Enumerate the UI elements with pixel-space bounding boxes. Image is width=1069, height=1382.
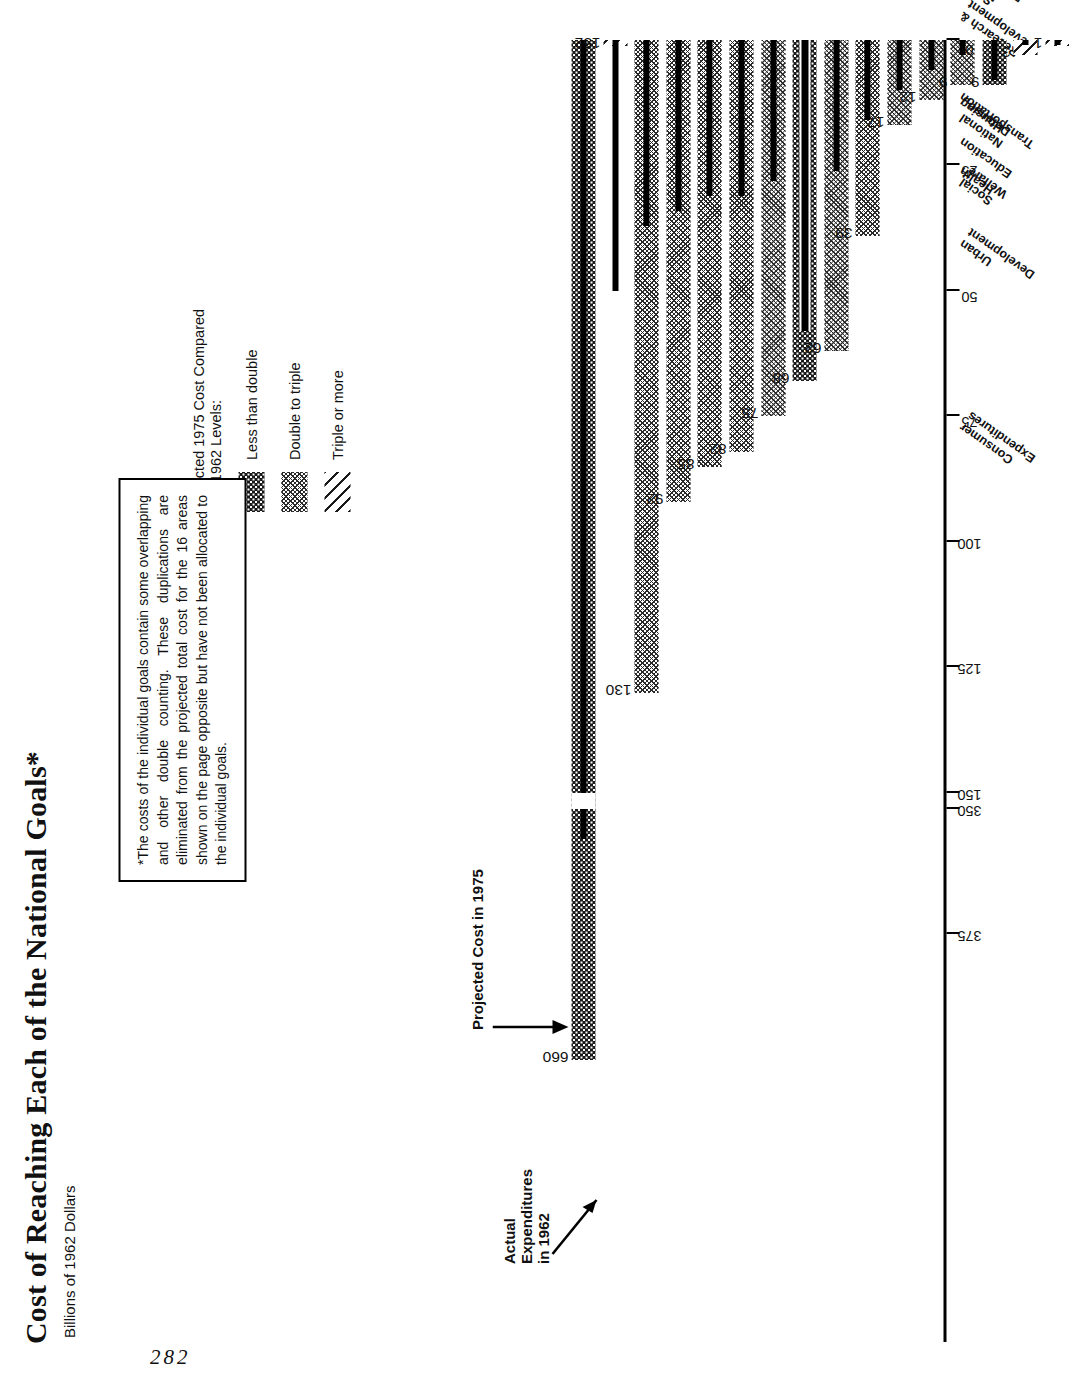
bar-value-label: 75 (740, 405, 757, 423)
actual-1962-inner-bar (799, 40, 810, 331)
footnote-text: *The costs of the individual goals conta… (133, 495, 231, 865)
legend: Projected 1975 Cost Compared with 1962 L… (190, 262, 367, 512)
page-title: Cost of Reaching Each of the National Go… (18, 751, 52, 1344)
axis-tick-label: 150 (957, 787, 981, 803)
bar-slot (603, 40, 627, 46)
bar-slot (824, 40, 848, 351)
axis-tick-label: 25 (961, 163, 977, 179)
annotation-arrow-actual-icon (548, 1172, 610, 1262)
actual-1962-inner-bar (959, 40, 965, 55)
bar-value-label: 92 (646, 490, 663, 508)
page-subtitle: Billions of 1962 Dollars (60, 1185, 77, 1338)
bar-value-label: 9 (970, 73, 979, 91)
bar-slot (792, 40, 816, 381)
legend-title-line2: with 1962 Levels: (207, 262, 224, 512)
bar-slot (697, 40, 721, 467)
axis-tick-label: 0 (965, 42, 973, 58)
actual-1962-inner-bar (738, 40, 744, 196)
annotation-line2: Expenditures (517, 1169, 534, 1264)
actual-1962-inner-bar (1022, 40, 1028, 45)
axis-tick-label: 375 (957, 928, 981, 944)
legend-label: Triple or more (329, 370, 345, 460)
actual-1962-inner-bar (833, 40, 839, 171)
bar-group: 660ConsumerExpenditures152Private Plant … (565, 40, 943, 1342)
actual-1962-inner-bar (643, 40, 649, 226)
axis-tick (946, 164, 959, 166)
annotation-actual-1962: Actual Expenditures in 1962 (500, 1169, 551, 1264)
bar-value-label: 62 (804, 339, 821, 357)
actual-1962-inner-bar (580, 40, 586, 839)
axis-tick (946, 415, 959, 417)
axis-tick-label: 350 (957, 803, 981, 819)
bar-value-label: 17 (867, 113, 884, 131)
actual-1962-inner-bar (896, 40, 902, 90)
actual-1962-inner-bar (1054, 40, 1060, 45)
legend-title-line1: Projected 1975 Cost Compared (190, 262, 207, 512)
bar-slot (855, 40, 879, 236)
axis-break-icon (603, 793, 627, 809)
bar-slot (887, 40, 911, 125)
legend-item-triple-or-more: Triple or more (324, 262, 350, 512)
annotation-arrow-projected-icon (492, 1014, 572, 1038)
actual-1962-inner-bar (928, 40, 934, 70)
axis-line (943, 40, 946, 1342)
actual-1962-inner-bar (770, 40, 776, 181)
bar-slot (666, 40, 690, 502)
axis-tick-label: 100 (957, 536, 981, 552)
bar-slot (919, 40, 943, 100)
bar-value-label: 3 (1002, 43, 1011, 61)
legend-swatch-diagonal-icon (324, 472, 350, 512)
bar-slot (571, 40, 595, 1060)
bar-value-label: 68 (772, 369, 789, 387)
category-label: UrbanDevelopment (957, 226, 1037, 293)
page-number: 282 (150, 1345, 191, 1370)
bar-value-label: 82 (709, 440, 726, 458)
actual-1962-inner-bar (675, 40, 681, 211)
actual-1962-inner-bar (991, 40, 997, 80)
bar-value-label: 85 (677, 455, 694, 473)
legend-label: Less than double (243, 350, 259, 460)
bar-slot (634, 40, 658, 693)
axis-tick (946, 38, 959, 40)
legend-item-less-than-double: Less than double (238, 262, 264, 512)
axis-tick (946, 289, 959, 291)
actual-1962-inner-bar (864, 40, 870, 120)
bar-slot (1045, 40, 1069, 46)
footnote-box: *The costs of the individual goals conta… (118, 478, 246, 882)
bar-value-label: 130 (605, 681, 631, 699)
axis-tick-label: 125 (957, 661, 981, 677)
axis-tick-label: 75 (961, 414, 977, 430)
annotation-projected-1975: Projected Cost in 1975 (468, 869, 485, 1030)
bar-value-label: 1 (1033, 34, 1042, 52)
legend-label: Double to triple (286, 362, 302, 460)
chart-plot-area: 660ConsumerExpenditures152Private Plant … (565, 40, 985, 1342)
annotation-line1: Actual (500, 1169, 517, 1264)
legend-swatch-crosshatch-icon (281, 472, 307, 512)
bar-slot (761, 40, 785, 417)
bar-value-label: 660 (542, 1048, 568, 1066)
bar-value-label: 39 (835, 224, 852, 242)
axis-break-icon (571, 793, 595, 809)
bar-slot (729, 40, 753, 452)
actual-1962-inner-bar (706, 40, 712, 196)
legend-title: Projected 1975 Cost Compared with 1962 L… (190, 262, 224, 512)
bar-value-label: 12 (898, 88, 915, 106)
bar-value-label: 152 (574, 34, 600, 52)
axis-tick-label: 50 (961, 289, 977, 305)
legend-item-double-to-triple: Double to triple (281, 262, 307, 512)
actual-1962-inner-bar (612, 40, 618, 291)
